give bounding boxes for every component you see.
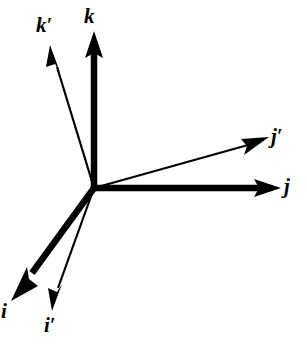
label-k: k: [84, 6, 95, 27]
vector-diagram-canvas: [0, 0, 307, 345]
vector-i-prime: [48, 188, 94, 311]
label-i: i: [1, 301, 7, 322]
vector-i-shaft: [32, 188, 94, 273]
label-j-prime: j′: [271, 126, 282, 147]
vector-k-prime-arrowhead: [46, 45, 60, 72]
label-i-prime: i′: [44, 315, 55, 336]
label-k-prime-letter: k: [36, 13, 47, 37]
vector-j: [94, 179, 281, 197]
label-i-prime-mark: ′: [50, 314, 56, 336]
vector-i: [11, 188, 94, 301]
label-k-prime-mark: ′: [47, 14, 53, 36]
vector-k-prime: [46, 45, 94, 188]
vector-j-prime: [94, 137, 269, 188]
label-j-prime-mark: ′: [277, 125, 283, 147]
vector-j-prime-shaft: [94, 145, 248, 188]
vector-i-prime-shaft: [58, 188, 94, 288]
label-k-prime: k′: [36, 15, 52, 36]
label-j: j: [284, 176, 290, 197]
vector-k-prime-shaft: [57, 67, 94, 188]
vector-i-prime-arrowhead: [48, 284, 62, 311]
vector-basis-figure: k k′ j′ j i i′: [0, 0, 307, 345]
